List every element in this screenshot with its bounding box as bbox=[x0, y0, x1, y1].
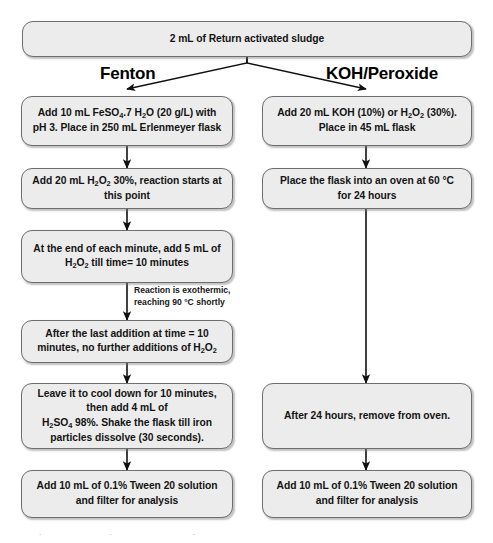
figure-caption-text: the KOH/peroxide method. Reproduced with… bbox=[8, 534, 486, 535]
node-fenton-step-3[interactable]: At the end of each minute, add 5 mL ofH2… bbox=[21, 230, 233, 283]
node-fenton-step-1[interactable]: Add 10 mL FeSO4.7 H2O (20 g/L) withpH 3.… bbox=[21, 96, 233, 146]
node-fenton-step-4[interactable]: After the last addition at time = 10minu… bbox=[21, 320, 233, 363]
node-koh-step-1[interactable]: Add 20 mL KOH (10%) or H2O2 (30%).Place … bbox=[262, 96, 472, 146]
annotation-exothermic: Reaction is exothermic,reaching 90 °C sh… bbox=[134, 285, 230, 309]
heading-fenton: Fenton bbox=[100, 64, 155, 84]
node-koh-step-4-label: Add 10 mL of 0.1% Tween 20 solutionand f… bbox=[270, 479, 464, 508]
figure-caption-cropped: the KOH/peroxide method. Reproduced with… bbox=[0, 534, 493, 543]
heading-koh-peroxide: KOH/Peroxide bbox=[326, 64, 438, 84]
node-fenton-step-5[interactable]: Leave it to cool down for 10 minutes,the… bbox=[21, 383, 233, 449]
node-fenton-step-4-label: After the last addition at time = 10minu… bbox=[29, 327, 225, 357]
node-koh-step-3-label: After 24 hours, remove from oven. bbox=[270, 409, 464, 424]
node-fenton-step-6[interactable]: Add 10 mL of 0.1% Tween 20 solutionand f… bbox=[21, 470, 233, 518]
node-koh-step-4[interactable]: Add 10 mL of 0.1% Tween 20 solutionand f… bbox=[262, 470, 472, 518]
node-fenton-step-3-label: At the end of each minute, add 5 mL ofH2… bbox=[29, 242, 225, 272]
node-start[interactable]: 2 mL of Return activated sludge bbox=[22, 21, 472, 57]
node-fenton-step-2-label: Add 20 mL H2O2 30%, reaction starts atth… bbox=[29, 174, 225, 204]
node-koh-step-2[interactable]: Place the flask into an oven at 60 °Cfor… bbox=[262, 168, 472, 209]
node-koh-step-3[interactable]: After 24 hours, remove from oven. bbox=[262, 383, 472, 449]
node-start-label: 2 mL of Return activated sludge bbox=[30, 32, 464, 47]
flowchart-figure: 2 mL of Return activated sludge Fenton K… bbox=[0, 0, 493, 543]
node-fenton-step-1-label: Add 10 mL FeSO4.7 H2O (20 g/L) withpH 3.… bbox=[29, 106, 225, 136]
node-fenton-step-5-label: Leave it to cool down for 10 minutes,the… bbox=[29, 387, 225, 446]
node-koh-step-2-label: Place the flask into an oven at 60 °Cfor… bbox=[270, 174, 464, 203]
node-fenton-step-2[interactable]: Add 20 mL H2O2 30%, reaction starts atth… bbox=[21, 168, 233, 209]
node-fenton-step-6-label: Add 10 mL of 0.1% Tween 20 solutionand f… bbox=[29, 479, 225, 508]
node-koh-step-1-label: Add 20 mL KOH (10%) or H2O2 (30%).Place … bbox=[270, 106, 464, 136]
